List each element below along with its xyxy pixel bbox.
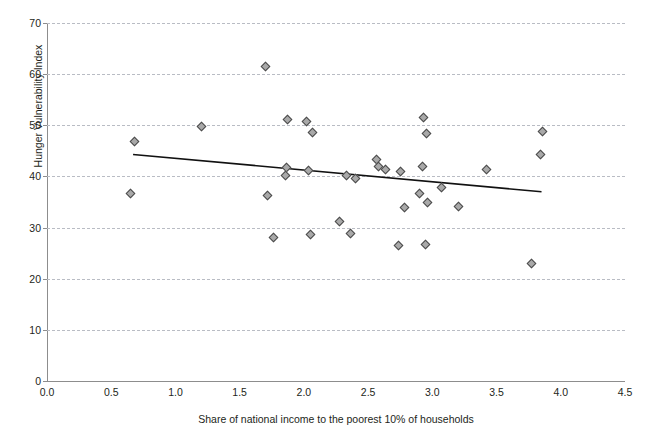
y-tick-label: 10: [0, 325, 41, 335]
x-tick-label: 0.5: [91, 387, 131, 398]
cropped-header-text: [0, 0, 646, 6]
y-tick-label: 0: [0, 376, 41, 386]
x-tick-label: 2.5: [348, 387, 388, 398]
x-tick-label: 0.0: [27, 387, 67, 398]
x-tick-label: 3.5: [477, 387, 517, 398]
y-tick-label: 40: [0, 171, 41, 181]
scatter-chart: Hunger Vulnerability Index Share of nati…: [0, 0, 646, 438]
x-tick-label: 4.5: [605, 387, 645, 398]
x-tick-label: 2.0: [284, 387, 324, 398]
y-tick-label: 50: [0, 120, 41, 130]
x-tick-label: 1.5: [220, 387, 260, 398]
x-axis-title: Share of national income to the poorest …: [47, 413, 625, 425]
x-tick-label: 4.0: [541, 387, 581, 398]
x-tick-label: 3.0: [412, 387, 452, 398]
x-axis-line: [47, 381, 625, 382]
y-tick-label: 20: [0, 274, 41, 284]
x-tick-label: 1.0: [155, 387, 195, 398]
plot-area: [47, 23, 625, 381]
y-tick-label: 70: [0, 18, 41, 28]
trendline: [47, 23, 625, 381]
y-tick-mark: [43, 381, 47, 382]
y-tick-label: 60: [0, 69, 41, 79]
y-tick-label: 30: [0, 223, 41, 233]
